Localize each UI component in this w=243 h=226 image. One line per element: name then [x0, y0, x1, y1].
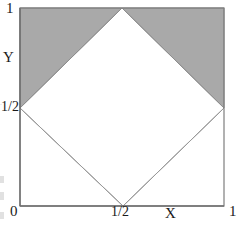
y-axis-max-label: 1 — [6, 1, 14, 16]
scan-artifact-mark — [0, 104, 2, 105]
figure-canvas: 1 Y 1/2 0 1/2 X 1 — [0, 0, 243, 226]
y-axis-title: Y — [3, 50, 14, 65]
y-axis-mid-label: 1/2 — [1, 100, 19, 114]
scan-artifact-mark — [0, 192, 4, 200]
scan-artifact-mark — [0, 176, 4, 183]
plot-area — [0, 0, 243, 226]
x-axis-mid-label: 1/2 — [111, 205, 129, 219]
x-axis-max-label: 1 — [229, 204, 237, 219]
x-axis-title: X — [165, 206, 176, 221]
origin-label: 0 — [10, 204, 18, 219]
scan-artifact-mark — [0, 212, 4, 219]
